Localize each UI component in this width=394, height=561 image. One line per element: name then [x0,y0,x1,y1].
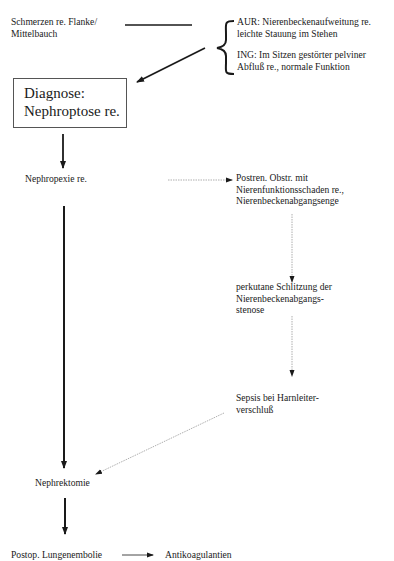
perkutane-line3: stenose [236,304,332,316]
lungenembolie-node: Postop. Lungenembolie [11,549,102,561]
nephropexie-node: Nephropexie re. [25,173,87,185]
diagnosis-line1: Diagnose: [24,84,120,102]
ing-line1: ING: Im Sitzen gestörter pelviner [237,49,366,61]
perkutane-line2: Nierenbeckenabgangs- [236,293,332,305]
postren-line1: Postren. Obstr. mit [236,172,344,184]
diagnosis-line2: Nephroptose re. [24,102,120,120]
postren-node: Postren. Obstr. mit Nierenfunktionsschad… [236,172,344,207]
antikoagulantien-node: Antikoagulantien [165,549,232,561]
perkutane-node: perkutane Schlitzung der Nierenbeckenabg… [236,281,332,316]
symptom-line1: Schmerzen re. Flanke/ [11,16,97,28]
findings-to-diagnosis-arrow [137,48,205,82]
nephrektomie-node: Nephrektomie [35,477,90,489]
aur-finding-node: AUR: Nierenbeckenaufweitung re. leichte … [237,16,371,39]
sepsis-line2: verschluß [236,404,319,416]
sepsis-line1: Sepsis bei Harnleiter- [236,392,319,404]
sepsis-node: Sepsis bei Harnleiter- verschluß [236,392,319,415]
aur-line1: AUR: Nierenbeckenaufweitung re. [237,16,371,28]
postren-line3: Nierenbeckenabgangsenge [236,195,344,207]
symptom-line2: Mittelbauch [11,28,97,40]
ing-finding-node: ING: Im Sitzen gestörter pelviner Abfluß… [237,49,366,72]
aur-line2: leichte Stauung im Stehen [237,28,371,40]
postren-line2: Nierenfunktionsschaden re., [236,184,344,196]
diagnosis-node: Diagnose: Nephroptose re. [24,84,120,120]
perkutane-line1: perkutane Schlitzung der [236,281,332,293]
symptom-node: Schmerzen re. Flanke/ Mittelbauch [11,16,97,39]
sepsis-to-nephrektomie-arrow [96,413,224,474]
ing-line2: Abfluß re., normale Funktion [237,61,366,73]
curly-brace-icon [217,21,234,74]
